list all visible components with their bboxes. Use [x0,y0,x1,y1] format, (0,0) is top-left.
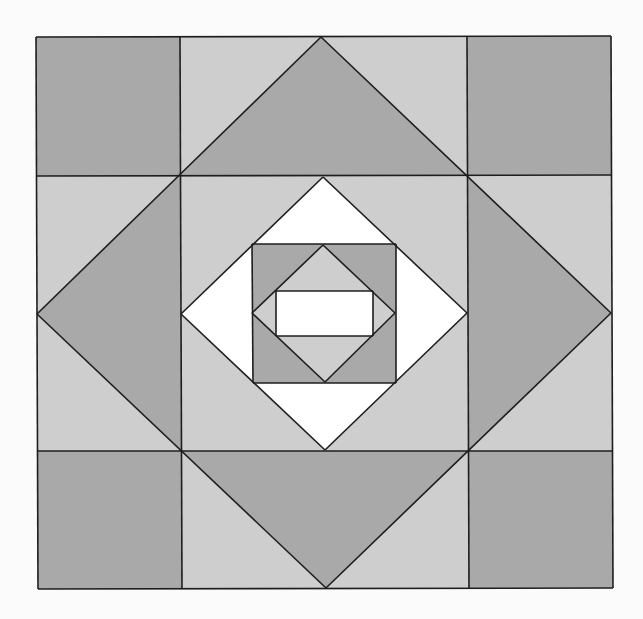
corner-block-bottom-right [469,451,613,588]
corner-block-top-left [36,37,180,176]
outer-border-top [36,36,611,37]
corner-block-bottom-left [38,451,182,589]
fill-layer [36,36,613,589]
quilt-diagram: Quilt block pattern: square-in-a-square … [0,0,643,619]
corner-block-top-right [467,36,611,175]
grid-line-horizontal-top [36,175,611,176]
center-rectangle [276,291,373,336]
quilt-canvas [0,0,643,619]
